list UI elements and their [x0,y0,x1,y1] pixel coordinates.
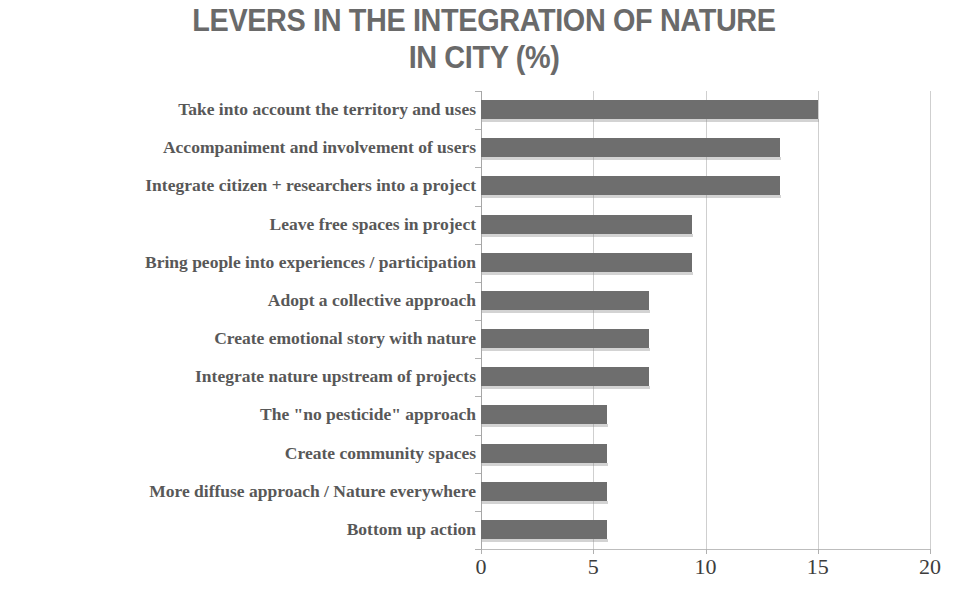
category-label: Bottom up action [6,519,476,539]
category-label: Take into account the territory and uses [6,99,476,119]
bar [481,215,692,234]
bar [481,291,649,310]
category-label: Create emotional story with nature [6,328,476,348]
category-label: More diffuse approach / Nature everywher… [6,481,476,501]
bar-row [481,511,930,549]
bar-row [481,167,930,205]
bar-row [481,129,930,167]
bar-shadow [482,272,693,275]
bar-row [481,244,930,282]
bar-row [481,358,930,396]
category-label: The "no pesticide" approach [6,404,476,424]
bar-shadow [482,234,693,237]
bar [481,100,818,119]
plot-area [481,91,930,549]
x-tick-label: 10 [671,554,741,580]
bar-row [481,435,930,473]
bar [481,444,607,463]
bar-row [481,206,930,244]
bar-shadow [482,195,781,198]
bar-shadow [482,310,650,313]
bar-shadow [482,386,650,389]
category-label: Accompaniment and involvement of users [6,137,476,157]
category-label: Adopt a collective approach [6,290,476,310]
bar-shadow [482,424,608,427]
category-label: Integrate nature upstream of projects [6,366,476,386]
bar [481,482,607,501]
bar-row [481,91,930,129]
x-tick-label: 5 [558,554,628,580]
category-label: Create community spaces [6,443,476,463]
bar-row [481,396,930,434]
bar [481,176,780,195]
bar-row [481,473,930,511]
category-label: Bring people into experiences / particip… [6,252,476,272]
bar [481,329,649,348]
x-tick-label: 0 [446,554,516,580]
bar-shadow [482,119,819,122]
bar [481,405,607,424]
bar-shadow [482,157,781,160]
bar [481,253,692,272]
bar-shadow [482,501,608,504]
bar-shadow [482,539,608,542]
chart-title: LEVERS IN THE INTEGRATION OF NATURE IN C… [34,2,934,76]
bar [481,520,607,539]
category-label: Leave free spaces in project [6,214,476,234]
category-label: Integrate citizen + researchers into a p… [6,175,476,195]
x-tick-label: 20 [895,554,965,580]
bar [481,138,780,157]
bar-shadow [482,348,650,351]
gridline-20 [930,91,931,549]
bar-chart: LEVERS IN THE INTEGRATION OF NATURE IN C… [0,0,968,616]
bar [481,367,649,386]
bar-row [481,320,930,358]
bar-shadow [482,463,608,466]
x-tick-label: 15 [783,554,853,580]
bar-row [481,282,930,320]
